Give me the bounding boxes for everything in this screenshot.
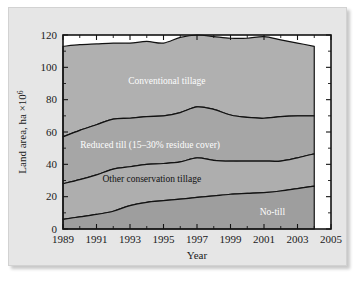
figure-card: 0204060801001201989199119931995199719992…	[8, 7, 347, 266]
x-tick-label: 2003	[287, 233, 310, 245]
y-axis-title: Land area, ha ×106	[16, 90, 29, 174]
x-tick-label: 2005	[320, 233, 343, 245]
stacked-area-chart: 0204060801001201989199119931995199719992…	[9, 8, 348, 267]
figure-root: 0204060801001201989199119931995199719992…	[0, 0, 364, 283]
y-tick-label: 40	[46, 158, 58, 170]
x-tick-label: 1991	[86, 233, 108, 245]
band-label-1: Other conservation tillage	[102, 174, 201, 184]
x-axis-title: Year	[187, 249, 208, 261]
x-tick-label: 1989	[52, 233, 75, 245]
x-tick-label: 2001	[253, 233, 275, 245]
y-tick-label: 120	[41, 29, 58, 41]
x-tick-label: 1993	[119, 233, 142, 245]
x-tick-label: 1999	[220, 233, 243, 245]
y-tick-label: 80	[46, 93, 58, 105]
y-tick-label: 20	[46, 190, 58, 202]
x-tick-label: 1995	[153, 233, 176, 245]
band-label-2: Reduced till (15–30% residue cover)	[80, 140, 220, 151]
x-tick-label: 1997	[186, 233, 209, 245]
chart-area: 0204060801001201989199119931995199719992…	[9, 8, 348, 267]
band-label-3: Conventional tillage	[128, 76, 205, 86]
y-tick-label: 100	[41, 61, 58, 73]
y-tick-label: 60	[46, 126, 58, 138]
band-label-0: No-till	[260, 207, 286, 217]
